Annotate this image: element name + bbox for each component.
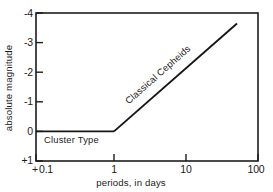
x-tick-label-10: 10 — [180, 163, 192, 175]
x-tick-labels: + 0.1 1 10 100 — [32, 163, 265, 175]
chart-svg: -4 -3 -2 -1 0 +1 + 0.1 1 10 100 periods,… — [0, 0, 273, 192]
x-origin-prefix: + — [32, 163, 38, 175]
y-axis-title: absolute magnitude — [3, 45, 14, 131]
y-tick-label-minus4: -4 — [24, 7, 33, 19]
y-tick-label-minus3: -3 — [24, 36, 33, 48]
series-classical-cepheids-line — [114, 24, 237, 132]
chart-figure: -4 -3 -2 -1 0 +1 + 0.1 1 10 100 periods,… — [0, 0, 273, 192]
x-axis-ticks — [36, 154, 258, 161]
y-tick-labels: -4 -3 -2 -1 0 +1 — [21, 7, 33, 167]
x-tick-label-0-1: 0.1 — [39, 163, 53, 175]
annotation-classical-cepheids: Classical Cepheids — [123, 43, 193, 106]
y-tick-label-zero: 0 — [27, 125, 33, 137]
y-tick-label-minus2: -2 — [24, 66, 33, 78]
y-tick-label-minus1: -1 — [24, 95, 33, 107]
x-axis-title: periods, in days — [96, 177, 166, 188]
x-tick-label-100: 100 — [248, 163, 265, 175]
annotation-cluster-type: Cluster Type — [44, 134, 99, 145]
y-axis-ticks — [36, 13, 43, 161]
x-tick-label-1: 1 — [111, 163, 117, 175]
